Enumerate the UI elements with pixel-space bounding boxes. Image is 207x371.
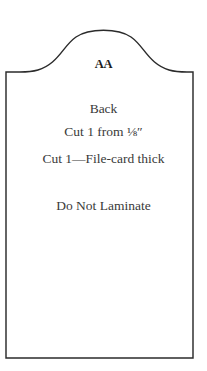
pattern-outline-shape (6, 30, 193, 358)
pattern-outline-canvas (0, 0, 207, 371)
